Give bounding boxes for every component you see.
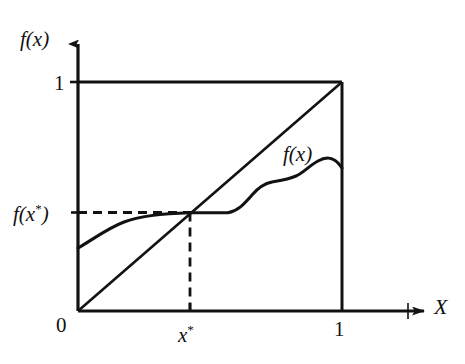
curve-label-fx: f(x): [283, 142, 312, 167]
fxstar-close-paren: ): [42, 202, 49, 226]
y-axis-label: f(x): [20, 27, 49, 52]
x-tick-label-xstar: x*: [178, 322, 194, 348]
figure-container: f(x) 1 f(x*) 0 x* 1 X f(x): [0, 0, 465, 364]
xstar-main: x: [178, 323, 187, 347]
origin-label: 0: [56, 313, 67, 338]
y-tick-label-one: 1: [54, 71, 65, 96]
xstar-asterisk: *: [187, 322, 194, 337]
diagonal-45-line: [78, 82, 342, 311]
y-tick-label-fxstar: f(x*): [13, 201, 49, 227]
fixed-point-diagram-canvas: [0, 0, 465, 364]
function-curve-fx: [78, 158, 342, 248]
x-axis-label: X: [434, 294, 447, 320]
fxstar-main: f(x: [13, 202, 35, 226]
x-tick-label-one: 1: [334, 317, 345, 342]
